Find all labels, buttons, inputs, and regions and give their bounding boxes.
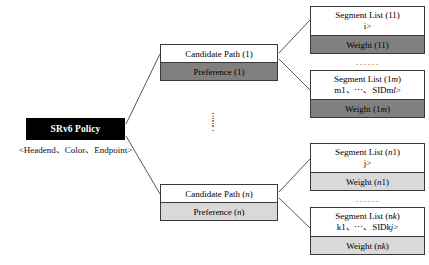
candidate-path-n-title: Candidate Path (n) (161, 185, 277, 202)
candidate-path-n-preference: Preference (n) (161, 202, 277, 220)
segment-list-nk-title: Segment List (nk) (313, 211, 422, 222)
segment-list-n1-sids: j> (313, 158, 422, 169)
segment-list-1m-sids: m1、⋯、SIDml> (313, 85, 422, 96)
candidate-path-1-preference: Preference (1) (161, 62, 277, 80)
candidate-path-1-title: Candidate Path (1) (161, 45, 277, 62)
srv6-policy-subtitle: <Headend、Color、Endpoint> (4, 143, 147, 156)
segment-list-nk-sids: k1、⋯、SIDkj> (313, 222, 422, 233)
segment-list-n1-weight: Weight (n1) (311, 172, 424, 190)
srv6-policy-node[interactable]: SRv6 Policy (26, 118, 125, 140)
segment-list-bottom-ellipsis: ······ (310, 197, 425, 205)
segment-list-nk-node[interactable]: Segment List (nk) k1、⋯、SIDkj> Weight (nk… (310, 207, 425, 255)
segment-list-n1-header: Segment List (n1) j> (311, 144, 424, 172)
candidate-path-1-node[interactable]: Candidate Path (1) Preference (1) (160, 44, 278, 81)
segment-list-1m-title: Segment List (1m) (313, 74, 422, 85)
segment-list-top-ellipsis: ······ (310, 60, 425, 68)
segment-list-1m-weight: Weight (1m) (311, 99, 424, 117)
segment-list-n1-node[interactable]: Segment List (n1) j> Weight (n1) (310, 143, 425, 191)
segment-list-nk-weight: Weight (nk) (311, 236, 424, 254)
candidate-path-n-node[interactable]: Candidate Path (n) Preference (n) (160, 184, 278, 221)
segment-list-11-header: Segment List (11) i> (311, 7, 424, 35)
segment-list-11-node[interactable]: Segment List (11) i> Weight (11) (310, 6, 425, 54)
segment-list-11-title: Segment List (11) (313, 10, 422, 21)
segment-list-1m-header: Segment List (1m) m1、⋯、SIDml> (311, 71, 424, 99)
segment-list-11-weight: Weight (11) (311, 35, 424, 53)
srv6-policy-label: SRv6 Policy (51, 124, 101, 134)
candidate-path-vertical-ellipsis: ⋮ ⋮ ⋮ (206, 114, 220, 129)
segment-list-nk-header: Segment List (nk) k1、⋯、SIDkj> (311, 208, 424, 236)
srv6-policy-diagram: SRv6 Policy <Headend、Color、Endpoint> Can… (0, 0, 429, 265)
segment-list-n1-title: Segment List (n1) (313, 147, 422, 158)
segment-list-11-sids: i> (313, 21, 422, 32)
segment-list-1m-node[interactable]: Segment List (1m) m1、⋯、SIDml> Weight (1m… (310, 70, 425, 118)
